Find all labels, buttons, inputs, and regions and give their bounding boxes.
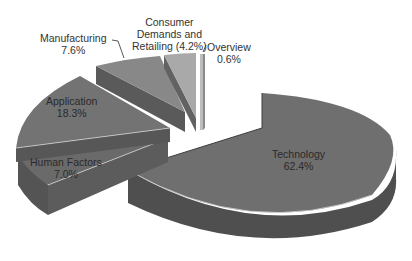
- label-technology-name: Technology: [272, 148, 325, 160]
- leader-line-manufacturing: [112, 40, 124, 58]
- label-technology: Technology 62.4%: [272, 148, 325, 172]
- label-application-pct: 18.3%: [46, 107, 97, 119]
- label-application-name: Application: [46, 95, 97, 107]
- label-consumer-line3: Retailing (4.2%): [132, 40, 207, 52]
- label-technology-pct: 62.4%: [272, 160, 325, 172]
- label-manufacturing-pct: 7.6%: [40, 44, 107, 56]
- label-human-factors: Human Factors 7.0%: [30, 156, 102, 180]
- label-consumer-demands: Consumer Demands and Retailing (4.2%): [132, 16, 207, 52]
- label-overview-name: Overview: [207, 41, 251, 53]
- label-application: Application 18.3%: [46, 95, 97, 119]
- label-consumer-line1: Consumer: [132, 16, 207, 28]
- label-human-factors-name: Human Factors: [30, 156, 102, 168]
- label-manufacturing-name: Manufacturing: [40, 32, 107, 44]
- label-overview: Overview 0.6%: [207, 41, 251, 65]
- label-human-factors-pct: 7.0%: [30, 168, 102, 180]
- label-consumer-line2: Demands and: [132, 28, 207, 40]
- label-overview-pct: 0.6%: [207, 53, 251, 65]
- slice-overview: [200, 54, 205, 130]
- label-manufacturing: Manufacturing 7.6%: [40, 32, 107, 56]
